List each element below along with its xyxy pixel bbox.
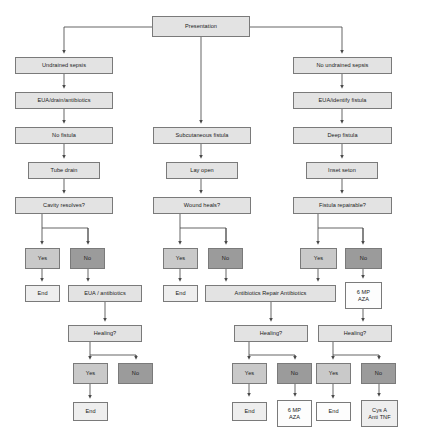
node-healing-mid-6mp: 6 MP AZA <box>277 400 312 427</box>
node-fistula-repairable: Fistula repairable? <box>293 197 392 214</box>
node-healing-right-no: No <box>361 363 396 384</box>
node-healing-right: Healing? <box>318 325 392 342</box>
node-subcut-fistula: Subcutaneous fistula <box>153 127 251 144</box>
node-deep-fistula: Deep fistula <box>293 127 392 144</box>
node-wound-end: End <box>163 285 198 302</box>
node-cavity-yes: Yes <box>25 248 60 269</box>
node-inset-seton: Inset seton <box>306 162 378 179</box>
node-fistula-yes: Yes <box>300 248 337 269</box>
node-abx-repair-abx: Antibiotics Repair Antibiotics <box>205 285 336 302</box>
node-eua-antibiotics: EUA / antibiotics <box>68 285 142 302</box>
node-eua-identify: EUA/identify fistula <box>293 92 392 109</box>
node-eua-drain-abx: EUA/drain/antibiotics <box>15 92 113 109</box>
node-wound-heals: Wound heals? <box>153 197 251 214</box>
node-lay-open: Lay open <box>166 162 238 179</box>
node-healing-left-no: No <box>118 363 153 384</box>
node-healing-right-end: End <box>316 402 351 421</box>
node-undrained-sepsis: Undrained sepsis <box>15 57 113 74</box>
node-cavity-resolves: Cavity resolves? <box>15 197 113 214</box>
node-healing-right-yes: Yes <box>316 363 351 384</box>
node-cavity-no: No <box>70 248 105 269</box>
node-healing-left-yes: Yes <box>73 363 108 384</box>
node-fistula-6mp: 6 MP AZA <box>345 282 382 309</box>
node-healing-mid-end: End <box>232 402 267 421</box>
node-tube-drain: Tube drain <box>28 162 100 179</box>
node-presentation: Presentation <box>152 16 250 37</box>
node-cavity-end: End <box>25 285 60 302</box>
node-wound-yes: Yes <box>163 248 198 269</box>
node-healing-mid-yes: Yes <box>232 363 267 384</box>
node-wound-no: No <box>208 248 243 269</box>
node-healing-mid-no: No <box>277 363 312 384</box>
node-healing-mid: Healing? <box>234 325 308 342</box>
node-cys-a-anti-tnf: Cys A Anti TNF <box>361 400 398 427</box>
node-fistula-no: No <box>345 248 382 269</box>
node-healing-left: Healing? <box>68 325 142 342</box>
node-healing-left-end: End <box>73 402 108 421</box>
node-no-undrained-sepsis: No undrained sepsis <box>293 57 392 74</box>
flowchart-diagram: PresentationUndrained sepsisEUA/drain/an… <box>0 0 421 439</box>
node-no-fistula: No fistula <box>15 127 113 144</box>
